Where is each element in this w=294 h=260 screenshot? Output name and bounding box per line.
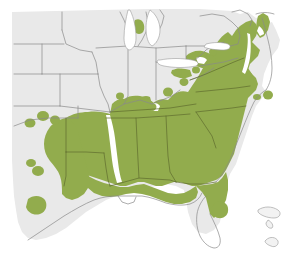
outlier-missouri [116,93,124,100]
outlier-ohio-valley-2 [180,78,189,86]
range-map-figure: Species distribution range map Eastern U… [0,0,294,260]
outlier-central-texas-3 [50,116,60,125]
outlier-ohio-valley-1 [163,88,173,97]
outlier-outer-banks [263,91,273,100]
outlier-central-texas-2 [37,111,49,121]
outlier-ohio-valley-5 [192,67,200,74]
outlier-south-texas-1 [26,159,36,167]
range-map-canvas [0,0,294,260]
outlier-ohio-valley-4 [174,69,182,76]
outlier-south-texas-2 [32,166,44,176]
outlier-central-florida [212,202,228,219]
lake-erie [157,59,198,68]
